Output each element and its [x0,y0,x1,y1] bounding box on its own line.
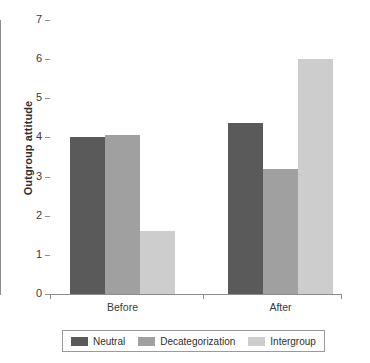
y-axis-tick: 0 [0,294,50,295]
y-axis-tick-mark [45,20,50,21]
y-axis-tick: 5 [0,98,50,99]
bar-after-neutral [228,123,263,294]
x-axis-label-before: Before [73,301,173,313]
bar-before-intergroup [140,231,175,294]
y-axis-tick-label: 5 [36,91,42,104]
legend-swatch-icon [248,337,265,346]
y-axis-title: Outgroup attitude [22,68,34,228]
bar-before-decategorization [105,135,140,294]
legend-item-intergroup[interactable]: Intergroup [248,336,316,347]
y-axis-tick-label: 4 [36,130,42,143]
bar-after-intergroup [298,59,333,294]
legend-label: Decategorization [160,336,235,347]
y-axis-tick: 7 [0,20,50,21]
y-axis-tick-mark [45,98,50,99]
y-axis-tick-label: 2 [36,209,42,222]
legend: NeutralDecategorizationIntergroup [62,330,325,352]
y-axis-tick-mark [45,59,50,60]
bar-after-decategorization [263,169,298,294]
y-axis-line [0,20,1,295]
legend-label: Neutral [93,336,125,347]
x-axis-line [50,294,342,295]
legend-label: Intergroup [270,336,316,347]
bar-chart: Outgroup attitude 01234567 BeforeAfter N… [0,0,370,363]
y-axis-tick-label: 7 [36,13,42,26]
y-axis-tick-label: 0 [36,287,42,300]
y-axis-tick: 3 [0,177,50,178]
y-axis-tick-mark [45,177,50,178]
legend-swatch-icon [138,337,155,346]
bar-before-neutral [70,137,105,294]
x-axis-group-divider [203,294,204,299]
y-axis-tick-mark [45,137,50,138]
x-axis-right-cap [341,294,342,299]
y-axis-tick-label: 3 [36,170,42,183]
x-axis-left-cap [50,294,51,299]
y-axis-tick: 4 [0,137,50,138]
y-axis-tick: 6 [0,59,50,60]
y-axis-tick: 2 [0,216,50,217]
x-axis-label-after: After [231,301,331,313]
y-axis-tick-mark [45,255,50,256]
legend-swatch-icon [71,337,88,346]
y-axis-tick-label: 6 [36,52,42,65]
y-axis-tick-label: 1 [36,248,42,261]
legend-item-decategorization[interactable]: Decategorization [138,336,235,347]
y-axis-tick: 1 [0,255,50,256]
y-axis-tick-mark [45,216,50,217]
legend-item-neutral[interactable]: Neutral [71,336,125,347]
